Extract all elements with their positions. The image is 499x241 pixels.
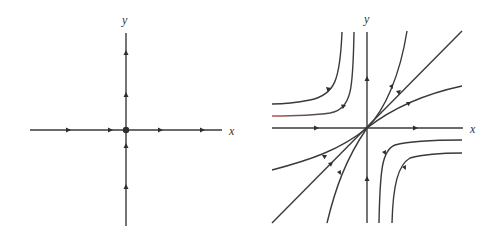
phase-portraits: y x xyxy=(0,0,499,241)
arrow-up-icon xyxy=(365,76,370,81)
arrow-up-icon xyxy=(365,176,370,181)
arrow-up-icon xyxy=(124,143,129,148)
trajectory-q4-outer xyxy=(392,153,462,223)
trajectory-q3-shallow xyxy=(272,128,367,170)
left-origin-dot xyxy=(123,127,129,133)
arrow-icon xyxy=(322,155,327,159)
arrow-up-icon xyxy=(124,184,129,189)
arrow-right-icon xyxy=(158,128,163,133)
arrow-right-icon xyxy=(314,126,319,131)
arrow-right-icon xyxy=(200,128,205,133)
trajectory-q2-outer xyxy=(272,32,342,104)
left-x-label: x xyxy=(228,124,235,138)
arrow-icon xyxy=(337,170,341,175)
arrow-up-icon xyxy=(124,92,129,97)
trajectory-q1-shallow xyxy=(367,86,462,128)
right-y-label: y xyxy=(363,12,370,26)
left-y-label: y xyxy=(121,13,128,27)
right-phase-portrait: y x xyxy=(272,12,476,223)
arrow-icon xyxy=(382,150,386,155)
right-x-label: x xyxy=(469,122,476,136)
trajectory-q1-steep xyxy=(367,31,407,128)
arrow-up-icon xyxy=(124,50,129,55)
arrow-right-icon xyxy=(413,126,418,131)
arrow-right-icon xyxy=(108,128,113,133)
arrow-right-icon xyxy=(66,128,71,133)
trajectory-q4-inner xyxy=(379,140,462,223)
left-phase-portrait: y x xyxy=(30,13,235,226)
